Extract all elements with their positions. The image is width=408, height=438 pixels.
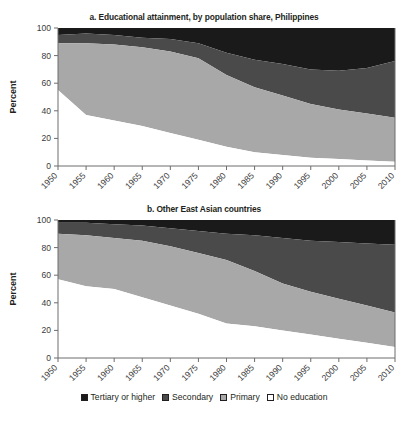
y-tick-label: 60 — [41, 78, 51, 88]
y-tick-label: 0 — [46, 161, 51, 171]
panel-a-title: a. Educational attainment, by population… — [0, 0, 408, 22]
x-tick-label: 1950 — [39, 170, 60, 191]
legend-label-primary: Primary — [230, 392, 260, 402]
legend-label-tertiary: Tertiary or higher — [91, 392, 155, 402]
legend-item-no-education: No education — [267, 392, 328, 402]
panel-a: a. Educational attainment, by population… — [0, 0, 408, 200]
panel-b-title: b. Other East Asian countries — [0, 200, 408, 214]
y-tick-label: 60 — [41, 270, 51, 280]
y-axis-label: Percent — [8, 272, 18, 305]
legend-item-primary: Primary — [220, 392, 260, 402]
legend-swatch-primary — [220, 394, 227, 401]
x-tick-label: 1985 — [235, 362, 256, 383]
x-tick-label: 2000 — [320, 362, 341, 383]
x-tick-label: 1970 — [151, 362, 172, 383]
y-tick-label: 20 — [41, 325, 51, 335]
x-tick-label: 1995 — [292, 170, 313, 191]
x-tick-label: 1990 — [263, 362, 284, 383]
x-tick-label: 2010 — [376, 362, 397, 383]
y-tick-label: 40 — [41, 106, 51, 116]
x-tick-label: 1980 — [207, 362, 228, 383]
chart-legend: Tertiary or higher Secondary Primary No … — [0, 392, 408, 402]
y-tick-label: 80 — [41, 51, 51, 61]
x-tick-label: 1985 — [235, 170, 256, 191]
y-axis-label: Percent — [8, 80, 18, 113]
figure-container: a. Educational attainment, by population… — [0, 0, 408, 438]
legend-item-tertiary: Tertiary or higher — [81, 392, 155, 402]
y-tick-label: 100 — [37, 23, 52, 33]
y-tick-label: 40 — [41, 298, 51, 308]
legend-swatch-no-education — [267, 394, 274, 401]
x-tick-label: 1960 — [95, 170, 116, 191]
x-tick-label: 1975 — [179, 362, 200, 383]
legend-swatch-tertiary — [81, 394, 88, 401]
legend-item-secondary: Secondary — [162, 392, 213, 402]
x-tick-label: 1990 — [263, 170, 284, 191]
y-tick-label: 80 — [41, 243, 51, 253]
y-tick-label: 20 — [41, 133, 51, 143]
legend-label-secondary: Secondary — [172, 392, 213, 402]
x-tick-label: 2005 — [348, 362, 369, 383]
y-tick-label: 100 — [37, 215, 52, 225]
x-tick-label: 1960 — [95, 362, 116, 383]
legend-swatch-secondary — [162, 394, 169, 401]
y-tick-label: 0 — [46, 353, 51, 363]
x-tick-label: 2005 — [348, 170, 369, 191]
x-tick-label: 2000 — [320, 170, 341, 191]
x-tick-label: 1955 — [67, 362, 88, 383]
x-tick-label: 1970 — [151, 170, 172, 191]
legend-label-no-education: No education — [277, 392, 328, 402]
x-tick-label: 2010 — [376, 170, 397, 191]
panel-b-plot: 020406080100Percent195019551960196519701… — [0, 214, 408, 392]
panel-a-plot: 020406080100Percent195019551960196519701… — [0, 22, 408, 200]
x-tick-label: 1975 — [179, 170, 200, 191]
x-tick-label: 1965 — [123, 362, 144, 383]
x-tick-label: 1965 — [123, 170, 144, 191]
x-tick-label: 1995 — [292, 362, 313, 383]
x-tick-label: 1955 — [67, 170, 88, 191]
area-chart-a: 020406080100Percent195019551960196519701… — [0, 22, 408, 200]
area-chart-b: 020406080100Percent195019551960196519701… — [0, 214, 408, 392]
x-tick-label: 1980 — [207, 170, 228, 191]
x-tick-label: 1950 — [39, 362, 60, 383]
panel-b: b. Other East Asian countries 0204060801… — [0, 200, 408, 392]
